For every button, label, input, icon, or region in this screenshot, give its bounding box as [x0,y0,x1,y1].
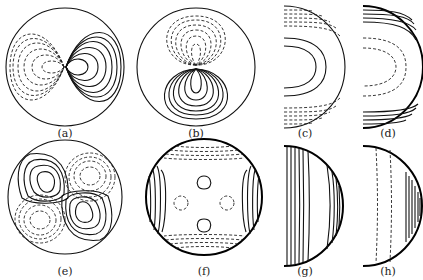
panel-b [137,8,255,126]
panel-g [284,146,343,266]
contour-figure [0,0,423,280]
caption-b: (b) [181,127,211,140]
caption-e: (e) [50,265,80,278]
panel-e [8,140,122,254]
caption-a: (a) [50,127,80,140]
panel-f [146,139,262,255]
panel-a [6,8,124,126]
panel-c [284,6,345,128]
caption-g: (g) [290,265,320,278]
caption-f: (f) [189,265,219,278]
caption-c: (c) [290,127,320,140]
caption-h: (h) [373,265,403,278]
panel-h [363,146,422,266]
panel-d [363,6,423,128]
caption-d: (d) [373,127,403,140]
